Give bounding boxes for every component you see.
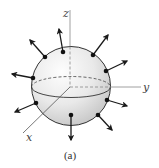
vector-arrow [12, 74, 35, 80]
vector-arrow [30, 40, 47, 59]
surface-point-dot [61, 50, 66, 55]
z-axis-label: z [62, 7, 69, 20]
vector-arrow [96, 113, 112, 130]
surface-point-dot [43, 55, 48, 60]
vector-arrow [105, 98, 127, 106]
surface-point-dot [105, 98, 110, 103]
surface-point-dot [69, 113, 74, 118]
vector-arrow [104, 61, 127, 73]
surface-point-dot [96, 113, 101, 118]
surface-point-dot [31, 76, 36, 81]
vector-arrow [91, 35, 108, 57]
figure-caption: (a) [64, 149, 77, 162]
sphere-vector-diagram: z y x [0, 0, 159, 168]
y-axis-label: y [142, 81, 150, 94]
surface-point-dot [91, 53, 96, 58]
surface-point-dot [34, 101, 39, 106]
x-axis-label: x [26, 131, 33, 144]
vector-arrow [15, 101, 38, 112]
surface-point-dot [104, 69, 109, 74]
